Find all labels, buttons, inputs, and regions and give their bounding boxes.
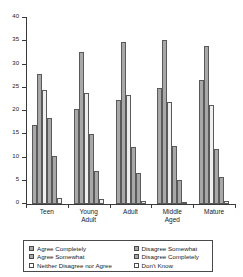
y-tick: 10 <box>22 157 27 158</box>
legend-swatch-icon <box>29 263 34 268</box>
legend-label: Agree Somewhat <box>37 253 84 260</box>
bar-group <box>32 18 62 204</box>
y-tick-label: 0 <box>16 199 19 206</box>
x-category-label: Adult <box>110 208 152 216</box>
bar <box>57 198 62 205</box>
legend-column-left: Agree CompletelyAgree SomewhatNeither Di… <box>29 244 134 270</box>
y-tick: 35 <box>22 40 27 41</box>
y-tick-label: 10 <box>12 153 19 160</box>
y-axis-line <box>26 18 27 204</box>
bar <box>99 199 104 204</box>
y-tick-label: 20 <box>12 106 19 113</box>
bar <box>141 201 146 204</box>
legend-column-right: Disagree SomewhatDisagree CompletelyDon'… <box>134 244 209 270</box>
legend-label: Disagree Completely <box>142 253 199 260</box>
x-category-label: Teen <box>26 208 68 216</box>
bar-group <box>157 18 187 204</box>
legend-label: Neither Disagree nor Agree <box>37 262 112 269</box>
bar-group <box>199 18 229 204</box>
legend-swatch-icon <box>134 254 139 259</box>
x-category-label: Young Adult <box>68 208 110 224</box>
bar-group <box>74 18 104 204</box>
legend-label: Disagree Somewhat <box>142 245 198 252</box>
x-axis-line <box>26 204 235 205</box>
bar-group <box>116 18 146 204</box>
bar <box>224 201 229 204</box>
y-tick-label: 25 <box>12 83 19 90</box>
y-tick-label: 35 <box>12 36 19 43</box>
y-tick: 15 <box>22 133 27 134</box>
bar-chart-figure: 0510152025303540 TeenYoung AdultAdultMid… <box>0 0 243 277</box>
legend-item[interactable]: Disagree Completely <box>134 253 209 262</box>
bar <box>177 180 182 204</box>
x-category-label: Mature <box>193 208 235 216</box>
x-category-label: Middle Aged <box>151 208 193 224</box>
legend-item[interactable]: Neither Disagree nor Agree <box>29 261 134 270</box>
legend-swatch-icon <box>134 263 139 268</box>
legend-item[interactable]: Agree Completely <box>29 244 134 253</box>
y-tick: 25 <box>22 87 27 88</box>
legend-item[interactable]: Don't Know <box>134 261 209 270</box>
y-tick-label: 15 <box>12 129 19 136</box>
legend-item[interactable]: Agree Somewhat <box>29 253 134 262</box>
y-tick-label: 5 <box>16 176 19 183</box>
legend-swatch-icon <box>29 246 34 251</box>
legend-item[interactable]: Disagree Somewhat <box>134 244 209 253</box>
legend-swatch-icon <box>134 246 139 251</box>
legend-label: Don't Know <box>142 262 173 269</box>
legend-swatch-icon <box>29 254 34 259</box>
bar <box>136 173 141 204</box>
y-tick: 20 <box>22 110 27 111</box>
chart-legend: Agree CompletelyAgree SomewhatNeither Di… <box>23 240 213 272</box>
y-tick-label: 40 <box>12 13 19 20</box>
legend-label: Agree Completely <box>37 245 86 252</box>
plot-area: 0510152025303540 <box>26 18 235 204</box>
bar <box>182 202 187 204</box>
x-tick <box>235 204 236 208</box>
y-tick: 40 <box>22 17 27 18</box>
y-tick-label: 30 <box>12 60 19 67</box>
y-tick: 30 <box>22 64 27 65</box>
y-tick: 5 <box>22 180 27 181</box>
